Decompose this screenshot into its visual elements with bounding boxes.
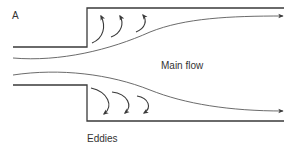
lower-eddies xyxy=(91,88,148,114)
lower-eddy-arrow xyxy=(91,88,109,114)
main-flow-label: Main flow xyxy=(161,60,204,71)
upper-streamline-arrow xyxy=(13,16,283,59)
panel-label: A xyxy=(12,10,19,21)
sudden-expansion-diagram: A Main flow Eddies xyxy=(0,0,297,150)
upper-eddy-arrow xyxy=(136,15,145,32)
upper-eddies xyxy=(92,15,145,43)
lower-wall xyxy=(13,85,284,121)
upper-eddy-arrow xyxy=(92,16,104,43)
lower-eddy-arrow xyxy=(112,92,129,113)
upper-eddy-arrow xyxy=(111,16,122,37)
eddies-label: Eddies xyxy=(87,133,118,144)
lower-eddy-arrow xyxy=(137,96,148,113)
upper-wall xyxy=(13,8,284,47)
